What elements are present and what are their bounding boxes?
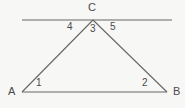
geometry-canvas (0, 0, 185, 108)
vertex-label-c: C (88, 2, 96, 13)
vertex-label-b: B (173, 86, 180, 97)
angle-label-2: 2 (142, 78, 148, 88)
angle-label-5: 5 (110, 22, 116, 32)
angle-label-4: 4 (67, 22, 73, 32)
side-cb (93, 20, 167, 92)
angle-label-3: 3 (90, 24, 96, 34)
geometry-figure: A B C 1 2 3 4 5 (0, 0, 185, 108)
angle-label-1: 1 (36, 78, 42, 88)
side-ac (22, 20, 93, 92)
vertex-label-a: A (8, 86, 15, 97)
